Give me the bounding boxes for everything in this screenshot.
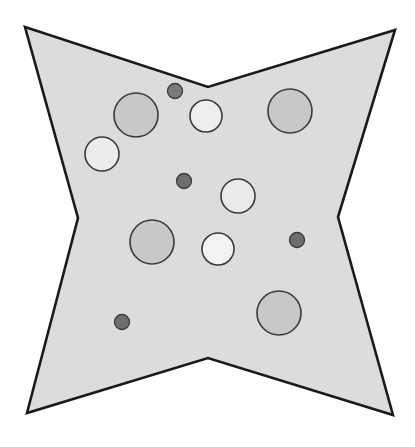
figure-canvas	[0, 0, 415, 447]
four-pointed-star-shape	[25, 27, 395, 415]
circle-4	[268, 89, 312, 133]
circle-8	[130, 220, 174, 264]
circle-9	[202, 233, 234, 265]
circle-12	[257, 291, 301, 335]
circle-3	[190, 100, 222, 132]
circle-1	[114, 93, 158, 137]
circle-6	[177, 174, 192, 189]
circle-10	[290, 233, 305, 248]
circle-2	[168, 84, 183, 99]
circle-11	[115, 315, 130, 330]
circle-5	[85, 137, 119, 171]
circle-7	[221, 179, 255, 213]
